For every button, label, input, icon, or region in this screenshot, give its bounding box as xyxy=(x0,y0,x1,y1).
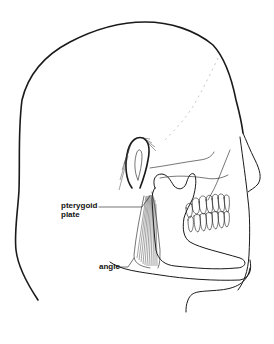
jaw-lower-contour xyxy=(110,260,251,280)
angle-label: angle xyxy=(99,262,120,271)
neck-front xyxy=(186,268,250,312)
face-profile-inner xyxy=(238,137,250,290)
head-diagram xyxy=(0,0,274,344)
face-profile xyxy=(243,133,260,192)
ear-inner xyxy=(135,150,142,180)
mandible-outline xyxy=(152,174,245,269)
pterygoid-plate-label-line2: plate xyxy=(61,210,97,219)
maxilla-line xyxy=(160,175,228,179)
zygomatic-arch xyxy=(150,152,214,168)
angle-leader-line xyxy=(118,258,134,267)
cranial-suture xyxy=(165,58,218,140)
pterygoid-plate-label: pterygoid plate xyxy=(61,201,97,219)
ear-hair-hatching xyxy=(119,138,156,190)
lower-teeth xyxy=(188,212,229,233)
zygoma-vertical xyxy=(208,150,230,200)
pterygoid-hatching xyxy=(134,192,160,268)
upper-teeth xyxy=(186,194,229,218)
ear-outer xyxy=(126,138,149,189)
head-outline xyxy=(15,22,243,300)
pterygoid-plate-label-line1: pterygoid xyxy=(61,201,97,210)
